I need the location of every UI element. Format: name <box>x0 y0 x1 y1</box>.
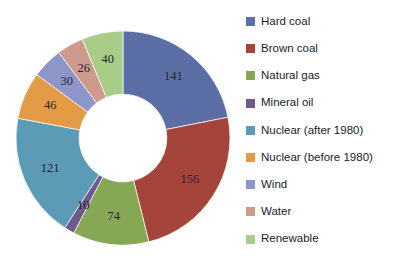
legend-color-swatch-icon <box>246 153 255 162</box>
legend-item-label: Natural gas <box>261 70 320 82</box>
donut-slice-value-label: 26 <box>78 61 91 75</box>
legend-item[interactable]: Hard coal <box>246 8 396 35</box>
legend-color-swatch-icon <box>246 235 255 244</box>
donut-slice-value-label: 30 <box>60 74 73 88</box>
legend-item-label: Wind <box>261 179 287 191</box>
legend-item[interactable]: Mineral oil <box>246 90 396 117</box>
legend-item-label: Water <box>261 206 291 218</box>
legend-item-label: Renewable <box>261 233 319 245</box>
legend-item-label: Brown coal <box>261 43 318 55</box>
legend-item[interactable]: Nuclear (before 1980) <box>246 144 396 171</box>
legend-item-label: Hard coal <box>261 16 310 28</box>
legend-item-label: Nuclear (after 1980) <box>261 125 363 137</box>
donut-slice-value-label: 46 <box>44 98 57 112</box>
donut-chart-svg: 141156741012146302640 <box>8 22 238 254</box>
legend-item[interactable]: Renewable <box>246 226 396 253</box>
chart-legend: Hard coalBrown coalNatural gasMineral oi… <box>246 8 396 258</box>
legend-color-swatch-icon <box>246 99 255 108</box>
legend-item[interactable]: Brown coal <box>246 35 396 62</box>
legend-color-swatch-icon <box>246 207 255 216</box>
donut-slice-value-label: 40 <box>101 52 114 66</box>
donut-chart-plot-area: 141156741012146302640 <box>8 22 238 254</box>
donut-slice-value-label: 121 <box>41 161 60 175</box>
legend-color-swatch-icon <box>246 17 255 26</box>
donut-chart-figure: 141156741012146302640 Hard coalBrown coa… <box>0 0 396 262</box>
legend-item[interactable]: Water <box>246 198 396 225</box>
donut-slice-value-label: 141 <box>164 69 183 83</box>
legend-item-label: Mineral oil <box>261 97 313 109</box>
donut-slice-group <box>16 31 230 245</box>
legend-item[interactable]: Wind <box>246 171 396 198</box>
legend-color-swatch-icon <box>246 180 255 189</box>
donut-slice-value-label: 156 <box>180 172 199 186</box>
legend-item-label: Nuclear (before 1980) <box>261 152 373 164</box>
legend-item[interactable]: Nuclear (after 1980) <box>246 117 396 144</box>
legend-color-swatch-icon <box>246 44 255 53</box>
donut-slice-value-label: 10 <box>77 198 90 212</box>
legend-item[interactable]: Natural gas <box>246 62 396 89</box>
legend-color-swatch-icon <box>246 126 255 135</box>
legend-color-swatch-icon <box>246 71 255 80</box>
donut-slice-value-label: 74 <box>107 209 120 223</box>
